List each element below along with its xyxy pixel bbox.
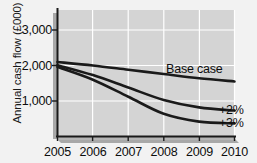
- x-tick-label-2005: 2005: [38, 145, 78, 159]
- y-tick-label-1000: 1,000: [8, 94, 52, 108]
- y-tick-label-2000: 2,000: [8, 59, 52, 73]
- x-tick-label-2007: 2007: [109, 145, 149, 159]
- series-label-plus-3-percent: +3%: [219, 116, 244, 130]
- series-label-plus-2-percent: +2%: [219, 103, 244, 117]
- chart-figure: Annual cash flow (£000): [0, 0, 257, 163]
- series-label-base-case: Base case: [166, 62, 223, 76]
- y-tick-label-3000: 3,000: [8, 23, 52, 37]
- x-tick-label-2008: 2008: [144, 145, 184, 159]
- x-tick-label-2006: 2006: [73, 145, 113, 159]
- y-tick-labels: 3,000 2,000 1,000: [6, 0, 52, 163]
- x-tick-label-2010: 2010: [215, 145, 255, 159]
- x-tick-label-2009: 2009: [180, 145, 220, 159]
